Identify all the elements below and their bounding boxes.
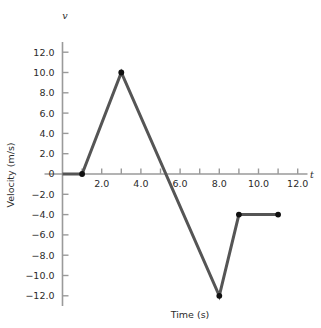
y-tick-label: −2.0	[31, 189, 54, 200]
data-point-marker	[236, 212, 242, 218]
x-axis-symbol-label: t	[310, 169, 314, 180]
y-tick-label: 6.0	[39, 108, 54, 119]
data-point-marker	[118, 70, 124, 76]
y-tick-label: 12.0	[33, 47, 54, 58]
x-tick-label: 12.0	[287, 178, 308, 189]
y-tick-label: 2.0	[39, 148, 54, 159]
y-axis-symbol-label: v	[62, 10, 68, 21]
data-point-marker	[216, 293, 222, 299]
y-tick-label: −10.0	[25, 270, 54, 281]
y-tick-label: −8.0	[31, 250, 54, 261]
x-tick-label: 4.0	[133, 178, 148, 189]
chart-canvas: 2.04.06.08.010.012.0 12.010.08.06.04.02.…	[0, 0, 321, 328]
y-tick-label: −12.0	[25, 290, 54, 301]
y-axis-title: Velocity (m/s)	[5, 142, 16, 207]
y-tick-label: 8.0	[39, 87, 54, 98]
velocity-time-chart: 2.04.06.08.010.012.0 12.010.08.06.04.02.…	[0, 0, 321, 328]
data-point-marker	[79, 171, 85, 177]
y-tick-label: 10.0	[33, 67, 54, 78]
data-point-marker	[275, 212, 281, 218]
y-tick-label: 0	[48, 168, 54, 179]
x-tick-label: 8.0	[212, 178, 227, 189]
y-tick-label: 4.0	[39, 128, 54, 139]
x-tick-label: 6.0	[173, 178, 188, 189]
y-tick-label: −4.0	[31, 209, 54, 220]
y-tick-label: −6.0	[31, 229, 54, 240]
x-axis-title: Time (s)	[170, 309, 210, 320]
x-tick-label: 2.0	[94, 178, 109, 189]
x-tick-label: 10.0	[248, 178, 269, 189]
